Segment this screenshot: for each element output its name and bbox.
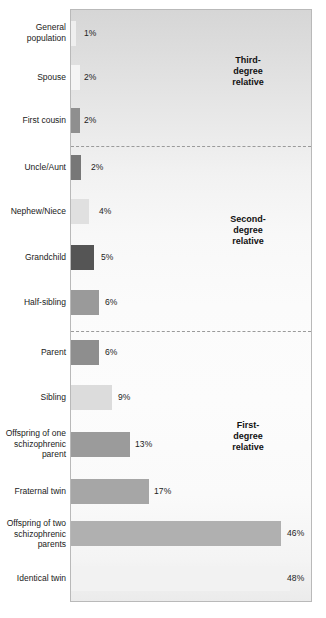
annotation-first-degree-relative: First- degree relative	[203, 420, 293, 453]
annotation-second-degree-relative: Second- degree relative	[203, 214, 293, 247]
annotation-third-degree-relative: Third- degree relative	[203, 55, 293, 88]
group-annotations-layer: Third- degree relative Second- degree re…	[0, 0, 326, 618]
schizophrenia-risk-chart: 1% 2% 2% 2% 4% 5% 6% 6% 9% 13% 17% 46% 4…	[0, 0, 326, 618]
